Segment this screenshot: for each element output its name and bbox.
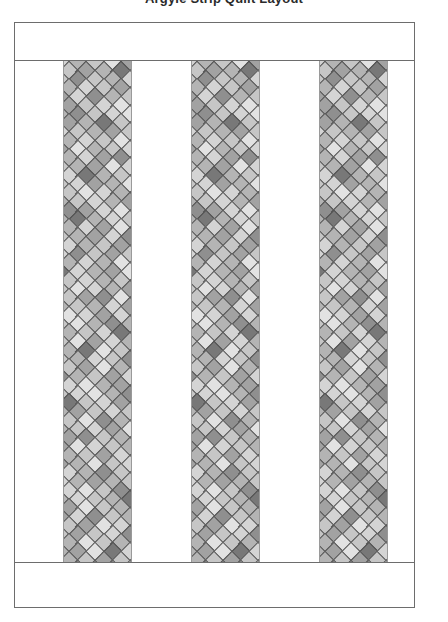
- argyle-strip-3: [319, 61, 388, 562]
- caption-clip: Argyle Strip Quilt Layout: [0, 0, 448, 10]
- top-border-band: [15, 23, 414, 60]
- argyle-pattern-3: [319, 61, 388, 562]
- bottom-border-band: [15, 563, 414, 608]
- quilt-frame: [14, 22, 415, 608]
- argyle-pattern-1: [63, 61, 132, 562]
- argyle-strip-1: [63, 61, 132, 562]
- strip-field: [15, 61, 414, 562]
- diagram-caption: Argyle Strip Quilt Layout: [0, 0, 448, 6]
- argyle-pattern-2: [191, 61, 260, 562]
- argyle-strip-2: [191, 61, 260, 562]
